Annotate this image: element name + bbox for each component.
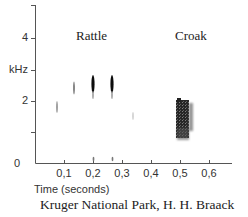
y-tick-label-0: 0 [0,157,20,169]
x-tick-label-0.1: 0,1 [52,167,76,179]
rattle-low-2 [112,157,114,161]
annotation-croak: Croak [175,28,207,44]
y-tick-label-4: 4 [6,31,28,43]
rattle-pulse-1 [56,101,58,113]
x-tick-label-0.4: 0,4 [139,167,163,179]
x-axis [36,160,233,164]
annotation-rattle: Rattle [76,28,107,44]
croak-block [176,98,193,140]
rattle-pulse-3 [91,75,94,93]
y-tick-label-2: 2 [6,94,28,106]
rattle-low-1 [93,157,95,161]
rattle-pulse-4 [110,75,113,93]
y-axis-unit-label: kHz [6,63,28,75]
x-tick-label-0.6: 0,6 [197,167,221,179]
rattle-pulse-5 [132,112,133,120]
rattle-pulse-2 [73,82,75,95]
x-tick-label-0.2: 0,2 [81,167,105,179]
x-tick-label-0.3: 0,3 [110,167,134,179]
y-axis [31,5,36,164]
x-tick-label-0.5: 0,5 [168,167,192,179]
rattle-pulses [56,75,133,161]
credit-caption: Kruger National Park, H. H. Braack [40,197,234,213]
x-axis-label: Time (seconds) [34,183,109,195]
